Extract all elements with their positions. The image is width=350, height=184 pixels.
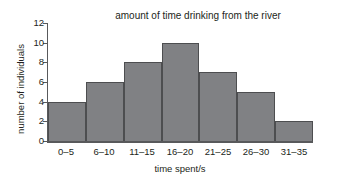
bar: [275, 121, 313, 141]
y-tick-label: 2: [39, 114, 44, 127]
bar-cell: [86, 23, 124, 141]
bar-cell: [237, 23, 275, 141]
x-tick-label: 6–10: [85, 145, 123, 158]
bar-series: [48, 23, 313, 141]
plot-area: 024681012: [47, 23, 313, 142]
bar: [86, 82, 124, 141]
x-tick-label: 26–30: [237, 145, 275, 158]
bar-cell: [48, 23, 86, 141]
y-tick-label: 0: [39, 134, 44, 147]
y-tick-label: 8: [39, 55, 44, 68]
x-tick-label: 21–25: [199, 145, 237, 158]
y-tick-label: 10: [33, 36, 44, 49]
bar-cell: [162, 23, 200, 141]
bar: [162, 43, 200, 141]
y-tick-label: 12: [33, 16, 44, 29]
chart-title: amount of time drinking from the river: [58, 10, 338, 22]
bar: [48, 102, 86, 141]
x-tick-label: 16–20: [161, 145, 199, 158]
bar-cell: [199, 23, 237, 141]
y-tick-label: 6: [39, 75, 44, 88]
x-tick-label: 31–35: [275, 145, 313, 158]
x-axis-title: time spent/s: [47, 163, 313, 175]
x-axis-tick-labels: 0–56–1011–1516–2021–2526–3031–35: [47, 145, 313, 158]
y-tick-label: 4: [39, 95, 44, 108]
histogram-figure: amount of time drinking from the river n…: [0, 0, 350, 184]
bar: [124, 62, 162, 141]
x-axis-line: [47, 141, 313, 143]
bar: [199, 72, 237, 141]
x-tick-label: 11–15: [123, 145, 161, 158]
bar-cell: [124, 23, 162, 141]
bar-cell: [275, 23, 313, 141]
bar: [237, 92, 275, 141]
x-tick-label: 0–5: [47, 145, 85, 158]
y-axis-title: number of individuals: [14, 28, 28, 150]
